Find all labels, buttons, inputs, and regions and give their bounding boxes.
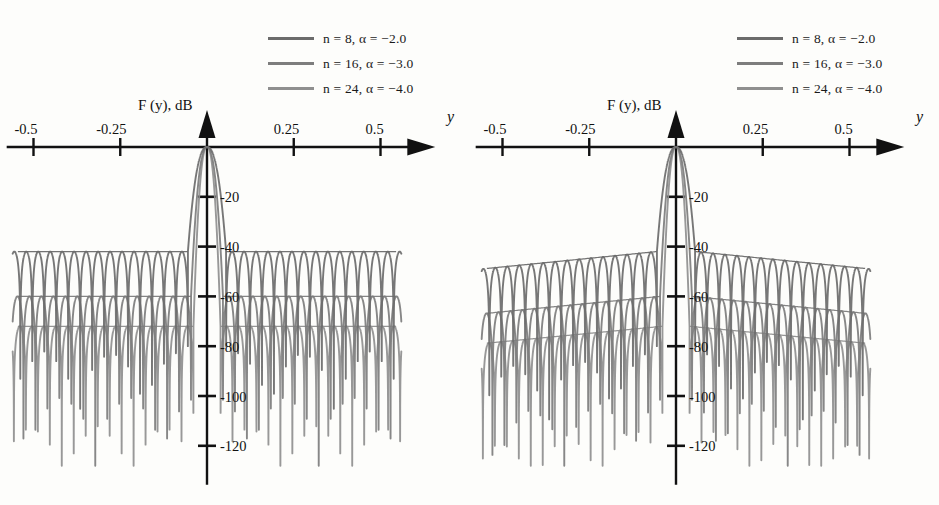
legend-item: n = 24, α = −4.0 [737,76,939,101]
x-tick-label: -0.25 [565,121,595,137]
y-tick-label: -100 [220,389,247,405]
x-axis-title: y [916,108,923,126]
x-tick-label: 0.5 [366,121,384,137]
y-tick-label: -120 [689,438,716,454]
y-tick-label: -120 [220,438,247,454]
chart-panel-right: -0.5-0.250.250.5-20-40-60-80-100-120 n =… [469,0,939,505]
legend-item: n = 24, α = −4.0 [268,76,478,101]
legend-label-n16: n = 16, α = −3.0 [323,56,414,72]
legend-swatch-n8 [268,37,314,40]
y-tick-label: -60 [689,289,708,305]
legend-label-n8: n = 8, α = −2.0 [792,31,876,47]
y-tick-label: -60 [220,289,239,305]
x-tick-label: 0.25 [743,121,768,137]
legend-label-n24: n = 24, α = −4.0 [792,81,883,97]
x-tick-label: -0.5 [15,121,38,137]
y-tick-label: -100 [689,389,716,405]
legend-item: n = 16, α = −3.0 [268,51,478,76]
legend-swatch-n24 [737,87,783,90]
legend-swatch-n8 [737,37,783,40]
legend-swatch-n24 [268,87,314,90]
legend-item: n = 16, α = −3.0 [737,51,939,76]
x-axis-title: y [447,108,454,126]
x-tick-label: -0.5 [484,121,507,137]
legend-swatch-n16 [737,62,783,65]
x-tick-label: 0.5 [835,121,853,137]
legend-item: n = 8, α = −2.0 [268,26,478,51]
legend-label-n8: n = 8, α = −2.0 [323,31,407,47]
legend-left: n = 8, α = −2.0 n = 16, α = −3.0 n = 24,… [268,26,478,101]
y-tick-label: -80 [689,339,708,355]
y-tick-label: -40 [220,239,239,255]
legend-item: n = 8, α = −2.0 [737,26,939,51]
y-tick-label: -20 [220,189,239,205]
legend-label-n16: n = 16, α = −3.0 [792,56,883,72]
figure-canvas: -0.5-0.250.250.5-20-40-60-80-100-120 n =… [0,0,939,505]
x-tick-label: -0.25 [96,121,126,137]
y-tick-label: -20 [689,189,708,205]
chart-panel-left: -0.5-0.250.250.5-20-40-60-80-100-120 n =… [0,0,470,505]
y-axis-title: F (y), dB [607,97,662,114]
legend-right: n = 8, α = −2.0 n = 16, α = −3.0 n = 24,… [737,26,939,101]
y-tick-label: -80 [220,339,239,355]
legend-swatch-n16 [268,62,314,65]
y-axis-title: F (y), dB [138,97,193,114]
legend-label-n24: n = 24, α = −4.0 [323,81,414,97]
x-tick-label: 0.25 [274,121,299,137]
y-tick-label: -40 [689,239,708,255]
